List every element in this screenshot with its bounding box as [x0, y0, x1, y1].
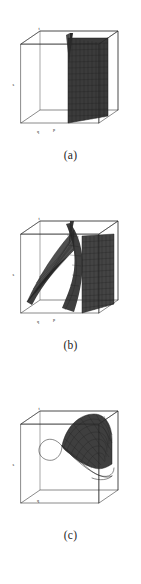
caption-c: (c) [0, 530, 141, 542]
panel-b: t s q p (b) [0, 190, 141, 352]
caption-b: (b) [0, 340, 141, 352]
panel-c-plot: t s q [0, 380, 141, 530]
figure-container: t s q p (a) [0, 0, 141, 584]
axis-label-s-b: s [13, 272, 15, 277]
surface-fold-b [62, 223, 83, 312]
axis-label-s-a: s [13, 82, 15, 87]
axis-label-q-c: q [37, 498, 40, 503]
axis-label-p-a: p [53, 127, 55, 132]
caption-a: (a) [0, 150, 141, 162]
surface-right-b [82, 234, 114, 313]
axis-label-s-c: s [13, 462, 15, 467]
axis-label-t-b: t [39, 216, 41, 221]
surface-dome-c [62, 414, 112, 469]
surface-plane-a [68, 38, 108, 123]
panel-a: t s q p (a) [0, 0, 141, 162]
axis-label-p-b: p [53, 317, 55, 322]
surface-saddle-left-b [27, 230, 74, 305]
panel-c: t s q (c) [0, 380, 141, 542]
panel-a-plot: t s q p [0, 0, 141, 150]
axis-label-q-a: q [37, 129, 40, 134]
axis-label-t-a: t [39, 26, 41, 31]
contour-loop-c [39, 439, 62, 460]
axis-label-t-c: t [39, 406, 41, 411]
panel-b-plot: t s q p [0, 190, 141, 340]
axis-label-q-b: q [37, 319, 40, 324]
